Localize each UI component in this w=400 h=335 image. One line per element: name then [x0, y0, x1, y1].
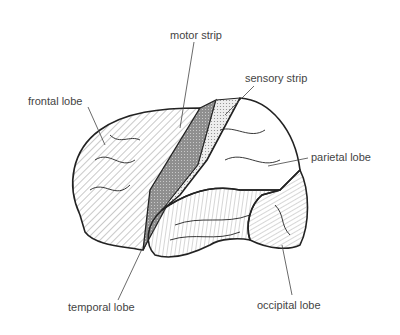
label-sensory-strip: sensory strip — [245, 73, 307, 84]
label-occipital-lobe: occipital lobe — [257, 300, 321, 311]
brain-diagram — [0, 0, 400, 335]
label-frontal-lobe: frontal lobe — [28, 96, 82, 107]
label-parietal-lobe: parietal lobe — [311, 152, 371, 163]
label-motor-strip: motor strip — [170, 30, 222, 41]
label-temporal-lobe: temporal lobe — [68, 302, 135, 313]
